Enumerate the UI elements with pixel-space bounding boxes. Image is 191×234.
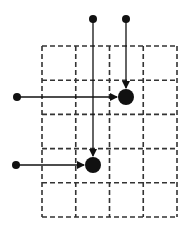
top-right-source-dot-icon bbox=[122, 15, 130, 23]
upper-target-dot-icon bbox=[118, 89, 134, 105]
dashed-grid bbox=[42, 46, 177, 217]
upper-left-source-dot-icon bbox=[13, 93, 21, 101]
lower-target-dot-icon bbox=[85, 157, 101, 173]
grid-arrow-diagram bbox=[0, 0, 191, 234]
lower-left-source-dot-icon bbox=[12, 161, 20, 169]
diagram-canvas bbox=[0, 0, 191, 234]
top-left-source-dot-icon bbox=[89, 15, 97, 23]
